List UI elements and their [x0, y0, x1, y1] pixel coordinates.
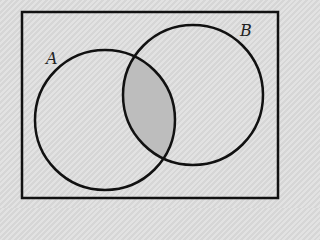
venn-svg: A B: [0, 0, 293, 208]
set-b-label: B: [239, 21, 252, 40]
venn-diagram: A B: [0, 0, 293, 208]
set-a-label: A: [44, 49, 58, 68]
